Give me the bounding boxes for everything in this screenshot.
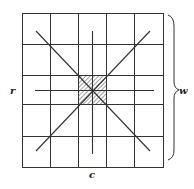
- label-c: c: [89, 169, 95, 180]
- grid-diagram: r c w: [0, 0, 194, 189]
- label-r: r: [10, 85, 16, 96]
- brace-right: [168, 15, 179, 160]
- label-w: w: [179, 85, 188, 96]
- cross-lines: [35, 31, 154, 154]
